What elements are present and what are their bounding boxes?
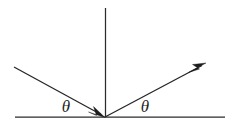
angle-of-reflection-label: θ — [141, 97, 149, 116]
reflected-ray-line — [105, 66, 202, 118]
incident-ray-line — [14, 67, 101, 115]
incident-ray-arrowhead-icon — [89, 107, 106, 118]
diagram-canvas: θ θ — [0, 0, 239, 131]
reflected-ray-arrowhead-icon — [189, 63, 207, 73]
angle-of-incidence-label: θ — [62, 97, 70, 116]
reflection-diagram: θ θ — [0, 0, 239, 131]
